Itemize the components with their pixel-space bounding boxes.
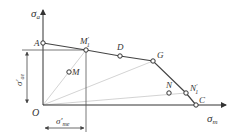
y-axis-label: σa	[31, 7, 40, 21]
point-M1-prime	[84, 48, 88, 52]
label-D: D	[116, 42, 124, 52]
label-A: A	[33, 38, 40, 48]
point-A	[41, 41, 45, 45]
label-N: N	[165, 80, 173, 90]
dimension-horizontal-label: σ′me	[56, 116, 70, 127]
diagram-canvas: σa σm O A M′1 D G N N′1 C M σ′ae σ′me	[0, 0, 237, 139]
point-N1-prime	[184, 91, 188, 95]
fatigue-diagram: σa σm O A M′1 D G N N′1 C M σ′ae σ′me	[0, 0, 237, 139]
load-rays	[43, 50, 186, 105]
point-C	[194, 103, 198, 107]
label-N1-prime: N′1	[189, 83, 198, 95]
point-D	[118, 54, 122, 58]
label-G: G	[157, 50, 164, 60]
dimension-vertical-label: σ′ae	[14, 74, 25, 86]
x-axis-label: σm	[207, 112, 218, 126]
label-C: C	[199, 95, 206, 105]
origin-label: O	[32, 107, 39, 118]
point-G	[151, 59, 155, 63]
label-M1-prime: M′1	[79, 36, 90, 48]
point-M	[67, 70, 71, 74]
point-N	[167, 91, 171, 95]
label-M: M	[71, 67, 80, 77]
